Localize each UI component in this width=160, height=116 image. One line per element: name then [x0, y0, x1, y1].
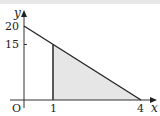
y-tick-label-20: 20 — [5, 20, 19, 33]
x-tick-label-1: 1 — [50, 102, 57, 115]
graph: y 20 15 O 1 4 x — [0, 0, 160, 116]
y-tick-label-15: 15 — [5, 38, 19, 51]
x-axis-label: x — [151, 101, 158, 115]
x-tick-label-4: 4 — [137, 102, 144, 115]
y-axis-arrow-icon — [21, 10, 27, 17]
origin-label: O — [12, 102, 21, 115]
y-axis-label: y — [13, 6, 21, 20]
